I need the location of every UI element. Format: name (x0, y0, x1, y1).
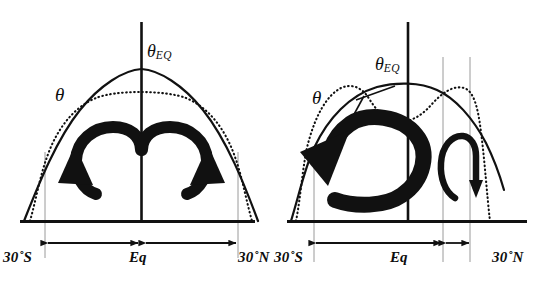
left-panel-label-30n: 30˚N (238, 250, 270, 265)
left-panel (20, 22, 258, 258)
right-panel-label-30s: 30˚S (274, 250, 303, 265)
left-panel-label-30s: 30˚S (3, 250, 32, 265)
right-panel-theta-eq-label: θEQ (375, 55, 400, 75)
theta-eq-subscript: EQ (156, 49, 172, 61)
right-panel-label-30n: 30˚N (492, 250, 524, 265)
figure-canvas: θEQ θ 30˚S Eq 30˚N θEQ θ 30˚S Eq 30˚N (0, 0, 545, 282)
right-panel (287, 22, 527, 262)
theta-symbol: θ (147, 41, 156, 61)
right-panel-theta-label: θ (312, 88, 321, 107)
right-panel-summer-cell-arrow (441, 136, 483, 198)
right-panel-label-eq: Eq (390, 250, 408, 265)
theta-symbol: θ (375, 54, 384, 74)
left-panel-northern-cell-arrow (142, 127, 225, 194)
right-panel-winter-cell-arrow (300, 117, 424, 205)
left-panel-label-eq: Eq (129, 250, 147, 265)
left-panel-theta-label: θ (55, 85, 64, 104)
theta-eq-subscript: EQ (384, 62, 400, 74)
left-panel-theta-eq-label: θEQ (147, 42, 172, 62)
left-panel-southern-cell-arrow (58, 127, 141, 194)
diagram-svg (0, 0, 545, 282)
